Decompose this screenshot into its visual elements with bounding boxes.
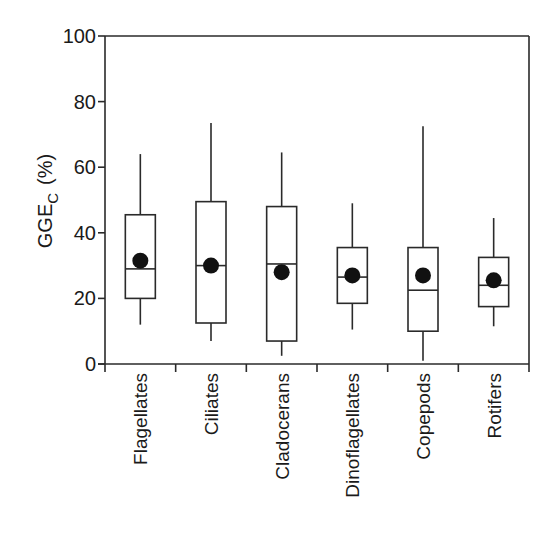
y-tick-label: 100 xyxy=(63,25,96,47)
x-tick-label-copepods: Copepods xyxy=(413,373,434,460)
mean-marker xyxy=(344,267,360,283)
y-tick-label: 60 xyxy=(74,156,96,178)
mean-marker xyxy=(274,264,290,280)
y-axis-title-unit: (%) xyxy=(34,154,56,185)
y-tick-label: 80 xyxy=(74,91,96,113)
mean-marker xyxy=(486,272,502,288)
y-axis-title-subscript: C xyxy=(44,193,61,204)
x-tick-label-cladocerans: Cladocerans xyxy=(272,373,293,480)
box-rotifers xyxy=(479,218,509,326)
box-series xyxy=(125,123,508,361)
mean-marker xyxy=(415,267,431,283)
x-axis: FlagellatesCiliatesCladoceransDinoflagel… xyxy=(98,364,529,498)
box-flagellates xyxy=(125,154,155,325)
y-tick-label: 40 xyxy=(74,222,96,244)
x-tick-label-ciliates: Ciliates xyxy=(201,373,222,435)
x-tick-label-rotifers: Rotifers xyxy=(484,373,505,438)
y-axis-title-main: GGE xyxy=(34,204,56,248)
box-cladocerans xyxy=(267,152,297,355)
box-dinoflagellates xyxy=(337,203,367,329)
y-axis-title: GGEC(%) xyxy=(34,154,61,248)
iqr-box xyxy=(408,248,438,332)
y-axis: 020406080100 xyxy=(63,25,105,375)
box-ciliates xyxy=(196,123,226,341)
mean-marker xyxy=(203,258,219,274)
plot-frame xyxy=(105,36,529,364)
x-tick-label-dinoflagellates: Dinoflagellates xyxy=(342,373,363,498)
x-tick-label-flagellates: Flagellates xyxy=(130,373,151,465)
mean-marker xyxy=(132,253,148,269)
y-tick-label: 20 xyxy=(74,287,96,309)
box-copepods xyxy=(408,126,438,361)
y-tick-label: 0 xyxy=(85,353,96,375)
box-plot-chart: 020406080100 FlagellatesCiliatesCladocer… xyxy=(0,0,553,537)
